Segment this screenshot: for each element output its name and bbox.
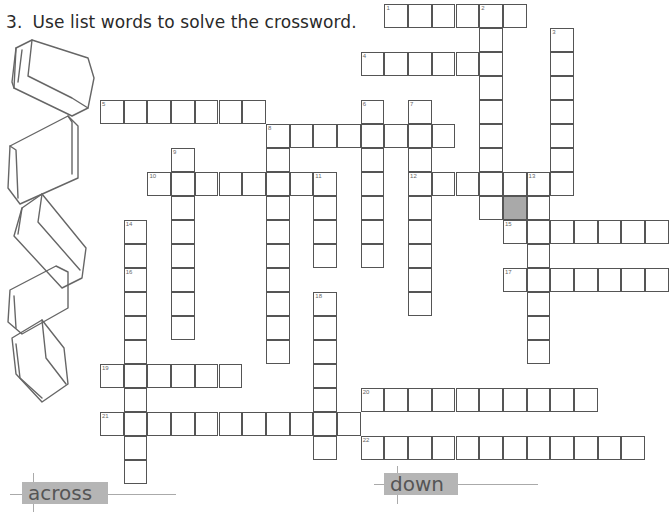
crossword-cell[interactable] — [479, 388, 503, 412]
crossword-cell[interactable] — [432, 52, 456, 76]
crossword-cell[interactable]: 4 — [361, 52, 385, 76]
crossword-cell[interactable] — [171, 220, 195, 244]
crossword-cell[interactable] — [384, 124, 408, 148]
crossword-cell[interactable] — [574, 268, 598, 292]
crossword-cell[interactable] — [195, 172, 219, 196]
crossword-cell[interactable]: 2 — [479, 4, 503, 28]
crossword-cell[interactable] — [503, 4, 527, 28]
crossword-cell[interactable] — [645, 268, 669, 292]
crossword-cell[interactable] — [432, 388, 456, 412]
crossword-cell[interactable] — [408, 268, 432, 292]
crossword-cell[interactable] — [479, 52, 503, 76]
crossword-cell[interactable] — [408, 148, 432, 172]
crossword-cell[interactable] — [171, 196, 195, 220]
crossword-cell[interactable] — [527, 244, 551, 268]
crossword-cell[interactable] — [503, 388, 527, 412]
crossword-cell[interactable]: 17 — [503, 268, 527, 292]
crossword-cell[interactable] — [550, 52, 574, 76]
crossword-cell[interactable] — [266, 220, 290, 244]
crossword-cell[interactable] — [456, 388, 480, 412]
crossword-cell[interactable] — [574, 220, 598, 244]
crossword-cell[interactable] — [219, 412, 243, 436]
crossword-cell[interactable] — [361, 196, 385, 220]
crossword-cell[interactable] — [124, 436, 148, 460]
crossword-cell[interactable] — [479, 100, 503, 124]
crossword-cell[interactable] — [384, 388, 408, 412]
crossword-cell[interactable] — [313, 340, 337, 364]
crossword-cell[interactable] — [550, 220, 574, 244]
crossword-cell[interactable] — [432, 436, 456, 460]
crossword-cell[interactable] — [503, 436, 527, 460]
crossword-cell[interactable] — [124, 292, 148, 316]
crossword-cell[interactable] — [337, 412, 361, 436]
crossword-cell[interactable] — [527, 316, 551, 340]
crossword-cell[interactable] — [242, 100, 266, 124]
crossword-cell[interactable] — [124, 316, 148, 340]
crossword-cell[interactable] — [574, 436, 598, 460]
crossword-cell[interactable] — [550, 268, 574, 292]
crossword-cell[interactable] — [171, 412, 195, 436]
crossword-cell[interactable] — [598, 220, 622, 244]
crossword-cell[interactable] — [456, 52, 480, 76]
crossword-cell[interactable]: 7 — [408, 100, 432, 124]
crossword-cell[interactable] — [527, 340, 551, 364]
crossword-cell[interactable] — [266, 340, 290, 364]
crossword-cell[interactable] — [479, 196, 503, 220]
crossword-cell[interactable] — [124, 412, 148, 436]
crossword-cell[interactable] — [479, 28, 503, 52]
crossword-cell[interactable] — [527, 292, 551, 316]
crossword-cell[interactable] — [266, 316, 290, 340]
crossword-cell[interactable]: 18 — [313, 292, 337, 316]
crossword-cell[interactable] — [290, 412, 314, 436]
crossword-cell[interactable] — [550, 436, 574, 460]
crossword-cell[interactable] — [195, 412, 219, 436]
crossword-cell[interactable] — [408, 124, 432, 148]
crossword-cell[interactable] — [361, 124, 385, 148]
crossword-cell[interactable] — [219, 100, 243, 124]
crossword-cell[interactable] — [621, 220, 645, 244]
crossword-cell[interactable] — [124, 364, 148, 388]
crossword-cell[interactable] — [550, 124, 574, 148]
crossword-cell[interactable] — [598, 268, 622, 292]
crossword-cell[interactable] — [124, 100, 148, 124]
crossword-cell[interactable] — [645, 220, 669, 244]
crossword-cell[interactable] — [147, 412, 171, 436]
crossword-cell[interactable] — [313, 412, 337, 436]
crossword-cell[interactable]: 19 — [100, 364, 124, 388]
crossword-cell[interactable] — [432, 124, 456, 148]
crossword-cell[interactable] — [550, 388, 574, 412]
crossword-cell[interactable] — [290, 124, 314, 148]
crossword-cell[interactable] — [313, 388, 337, 412]
crossword-cell[interactable] — [242, 172, 266, 196]
crossword-cell[interactable]: 5 — [100, 100, 124, 124]
crossword-cell[interactable] — [219, 172, 243, 196]
crossword-cell[interactable] — [313, 316, 337, 340]
crossword-cell[interactable] — [290, 172, 314, 196]
crossword-cell[interactable] — [171, 364, 195, 388]
crossword-cell[interactable] — [408, 4, 432, 28]
crossword-cell[interactable] — [361, 172, 385, 196]
crossword-cell[interactable] — [456, 436, 480, 460]
crossword-cell[interactable] — [266, 244, 290, 268]
crossword-cell[interactable] — [195, 364, 219, 388]
crossword-cell[interactable]: 16 — [124, 268, 148, 292]
crossword-cell[interactable] — [408, 52, 432, 76]
crossword-cell[interactable]: 1 — [384, 4, 408, 28]
crossword-cell[interactable] — [527, 436, 551, 460]
crossword-cell[interactable]: 11 — [313, 172, 337, 196]
crossword-cell[interactable] — [408, 292, 432, 316]
crossword-cell[interactable] — [503, 172, 527, 196]
crossword-cell[interactable] — [598, 436, 622, 460]
crossword-cell[interactable] — [147, 100, 171, 124]
crossword-cell[interactable] — [124, 388, 148, 412]
crossword-cell[interactable] — [384, 52, 408, 76]
crossword-cell[interactable] — [408, 388, 432, 412]
crossword-cell[interactable] — [147, 364, 171, 388]
crossword-cell[interactable]: 20 — [361, 388, 385, 412]
crossword-cell[interactable] — [408, 220, 432, 244]
crossword-cell[interactable] — [574, 388, 598, 412]
crossword-cell[interactable] — [621, 268, 645, 292]
crossword-cell[interactable] — [479, 124, 503, 148]
crossword-cell[interactable] — [408, 244, 432, 268]
crossword-cell[interactable]: 6 — [361, 100, 385, 124]
